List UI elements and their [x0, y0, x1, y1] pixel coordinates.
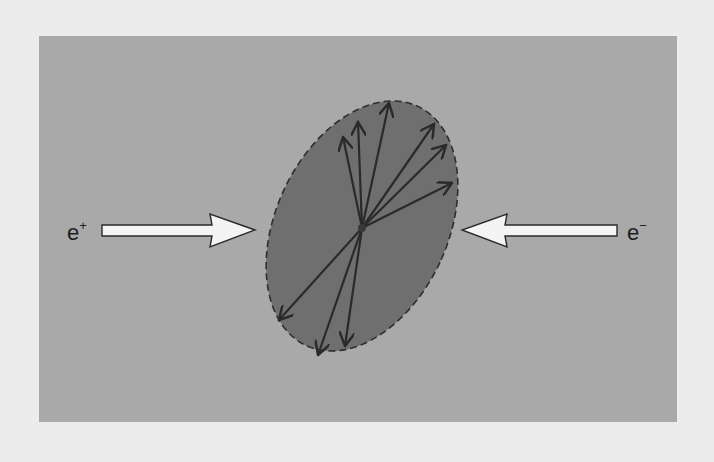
collision-vertex — [358, 224, 366, 232]
electron-symbol: e — [627, 220, 639, 245]
positron-label: e+ — [67, 222, 87, 244]
electron-charge: − — [639, 218, 647, 233]
positron-symbol: e — [67, 220, 79, 245]
positron-charge: + — [79, 218, 87, 233]
electron-label: e− — [627, 222, 647, 244]
collision-diagram — [0, 0, 714, 462]
electron-beam-arrow-icon — [462, 214, 617, 247]
positron-beam-arrow-icon — [102, 214, 255, 247]
